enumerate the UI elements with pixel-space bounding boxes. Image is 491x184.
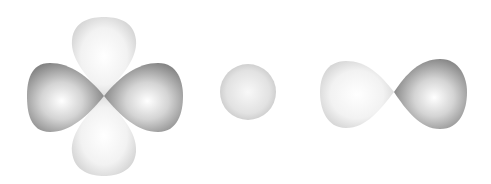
s-orbital: [220, 64, 276, 120]
p-orbital: [320, 59, 467, 129]
orbital-diagram: [0, 0, 491, 184]
p-lobe-right: [394, 59, 467, 129]
p-lobe-left: [320, 61, 394, 128]
d-orbital: [27, 17, 183, 176]
s-sphere: [220, 64, 276, 120]
